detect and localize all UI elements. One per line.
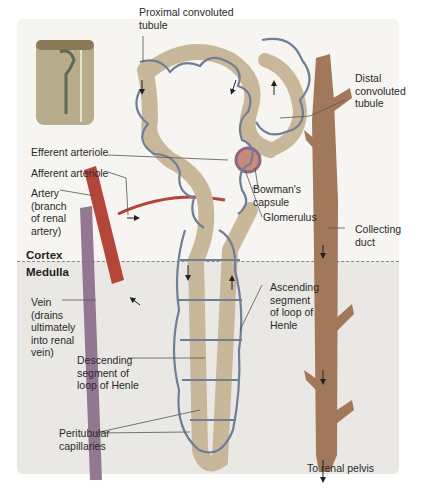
label-distal-tubule: Distal convoluted tubule [355, 72, 406, 110]
collecting-duct-icon [304, 54, 354, 480]
label-proximal-tubule: Proximal convoluted tubule [139, 6, 234, 31]
label-bowmans-capsule: Bowman's capsule [253, 183, 301, 208]
label-peritubular-capillaries: Peritubular capillaries [59, 427, 110, 452]
label-to-renal-pelvis: To renal pelvis [307, 462, 374, 475]
label-efferent-arteriole: Efferent arteriole [31, 146, 108, 159]
zone-cortex: Cortex [26, 249, 62, 261]
label-artery: Artery (branch of renal artery) [31, 187, 67, 237]
tubule-network-icon [145, 52, 300, 463]
label-glomerulus: Glomerulus [263, 211, 317, 224]
zone-medulla: Medulla [26, 266, 69, 278]
label-collecting-duct: Collecting duct [355, 223, 401, 248]
label-vein: Vein (drains ultimately into renal vein) [31, 296, 75, 359]
label-descending-loop: Descending segment of loop of Henle [77, 354, 139, 392]
label-afferent-arteriole: Afferent arteriole [31, 167, 108, 180]
kidney-inset-icon [36, 40, 94, 125]
label-ascending-loop: Ascending segment of loop of Henle [270, 281, 319, 331]
